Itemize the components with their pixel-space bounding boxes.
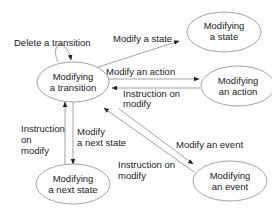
edge-delete-transition: Delete a transition: [14, 37, 91, 62]
node-modifying-state: Modifying a state: [187, 12, 261, 52]
edge-modify-state: Modify a state: [92, 33, 179, 69]
node-label-line2: a state: [210, 31, 239, 42]
edge-label-modify-next-state-1: Modify: [77, 126, 105, 137]
edge-label-delete-transition: Delete a transition: [14, 37, 91, 48]
edge-modify-action: Modify an action: [106, 66, 199, 79]
edge-modify-event: Modify an event: [118, 108, 243, 164]
node-label-line1: Modifying: [210, 170, 251, 181]
node-label-line1: Modifying: [218, 75, 259, 86]
edge-label-instruction-event-2: modify: [118, 170, 146, 181]
edge-label-instruction-next-state-1: Instruction: [21, 123, 65, 134]
node-modifying-transition: Modifying a transition: [37, 62, 109, 102]
node-label-line2: a transition: [50, 82, 96, 93]
edge-label-instruction-next-state-3: modify: [21, 145, 49, 156]
node-modifying-next-state: Modifying a next state: [36, 164, 110, 204]
node-label-line1: Modifying: [204, 20, 245, 31]
edge-modify-next-state: Modify a next state: [73, 101, 126, 164]
node-label-line2: an action: [219, 86, 258, 97]
edge-label-instruction-next-state-2: on: [21, 134, 32, 145]
edge-label-instruction-event-1: Instruction on: [118, 159, 175, 170]
edge-label-modify-state: Modify a state: [113, 33, 172, 44]
node-modifying-event: Modifying an event: [193, 161, 267, 201]
edge-label-instruction-action-2: modify: [123, 98, 151, 109]
node-label-line2: an event: [212, 181, 249, 192]
edge-label-modify-next-state-2: a next state: [77, 137, 126, 148]
state-transition-diagram: Delete a transition Modify a state Modif…: [0, 0, 272, 210]
node-label-line1: Modifying: [53, 173, 94, 184]
edge-instruction-from-action: Instruction on modify: [112, 88, 200, 109]
edge-label-modify-action: Modify an action: [106, 66, 175, 77]
edge-instruction-from-next-state: Instruction on modify: [21, 102, 65, 166]
node-modifying-action: Modifying an action: [201, 66, 272, 106]
edge-label-modify-event: Modify an event: [176, 139, 243, 150]
node-label-line2: a next state: [48, 184, 97, 195]
node-label-line1: Modifying: [53, 71, 94, 82]
